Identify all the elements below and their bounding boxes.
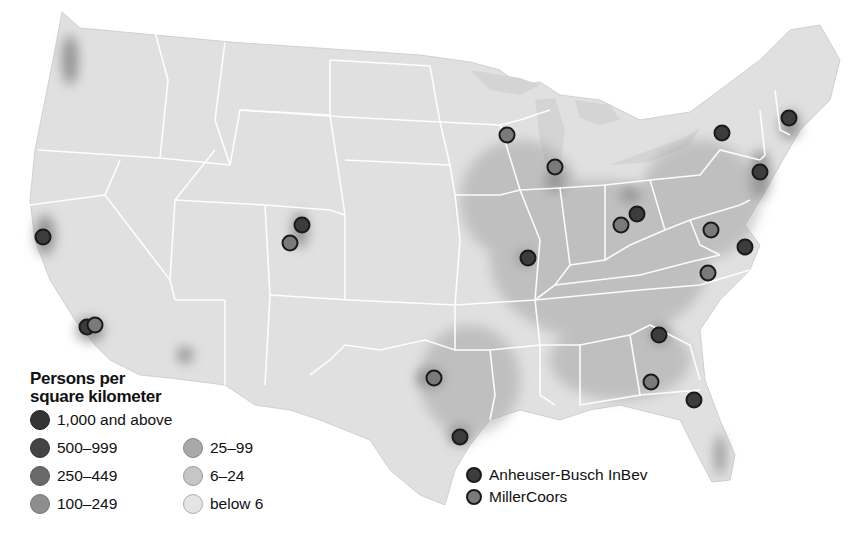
density-legend-item: 6–24 <box>183 466 244 486</box>
density-label: 1,000 and above <box>57 411 173 429</box>
density-legend-item: 25–99 <box>183 438 253 458</box>
millercoors-brewery-marker <box>282 235 299 252</box>
anheuser-busch-brewery-marker <box>686 392 703 409</box>
density-legend-item: 100–249 <box>30 494 117 514</box>
density-label: 500–999 <box>57 439 117 457</box>
brewery-label: MillerCoors <box>489 488 567 506</box>
density-label: 100–249 <box>57 495 117 513</box>
brewery-legend-item-mc: MillerCoors <box>466 488 648 506</box>
density-label: 25–99 <box>210 439 253 457</box>
density-swatch-icon <box>30 466 50 486</box>
anheuser-busch-brewery-marker <box>714 125 731 142</box>
anheuser-busch-brewery-marker <box>752 164 769 181</box>
millercoors-marker-icon <box>466 489 482 505</box>
anheuser-busch-brewery-marker <box>781 110 798 127</box>
density-swatch-icon <box>30 494 50 514</box>
anheuser-busch-brewery-marker <box>651 327 668 344</box>
millercoors-brewery-marker <box>643 374 660 391</box>
density-swatch-icon <box>183 438 203 458</box>
millercoors-brewery-marker <box>703 222 720 239</box>
anheuser-busch-brewery-marker <box>629 206 646 223</box>
millercoors-brewery-marker <box>700 265 717 282</box>
density-swatch-icon <box>183 494 203 514</box>
density-swatch-icon <box>30 438 50 458</box>
density-legend-items: 1,000 and above 500–999 250–449 100–249 … <box>30 408 310 518</box>
density-legend-item: 250–449 <box>30 466 117 486</box>
brewery-label: Anheuser-Busch InBev <box>489 466 648 484</box>
millercoors-brewery-marker <box>426 370 443 387</box>
density-legend-item: 500–999 <box>30 438 117 458</box>
density-legend: Persons per square kilometer 1,000 and a… <box>30 370 310 518</box>
anheuser-busch-brewery-marker <box>452 429 469 446</box>
anheuser-busch-brewery-marker <box>520 250 537 267</box>
millercoors-brewery-marker <box>547 159 564 176</box>
millercoors-brewery-marker <box>87 317 104 334</box>
density-swatch-icon <box>30 410 50 430</box>
density-label: 6–24 <box>210 467 244 485</box>
density-legend-item: below 6 <box>183 494 263 514</box>
millercoors-brewery-marker <box>499 127 516 144</box>
density-legend-title-line2: square kilometer <box>30 388 310 406</box>
brewery-legend: Anheuser-Busch InBev MillerCoors <box>466 466 648 510</box>
anheuser-busch-brewery-marker <box>294 217 311 234</box>
density-legend-item: 1,000 and above <box>30 410 173 430</box>
millercoors-brewery-marker <box>613 217 630 234</box>
anheuser-busch-brewery-marker <box>35 229 52 246</box>
brewery-legend-item-ab: Anheuser-Busch InBev <box>466 466 648 484</box>
density-label: 250–449 <box>57 467 117 485</box>
anheuser-busch-marker-icon <box>466 467 482 483</box>
anheuser-busch-brewery-marker <box>737 239 754 256</box>
density-swatch-icon <box>183 466 203 486</box>
density-legend-title-line1: Persons per <box>30 370 310 388</box>
density-label: below 6 <box>210 495 263 513</box>
